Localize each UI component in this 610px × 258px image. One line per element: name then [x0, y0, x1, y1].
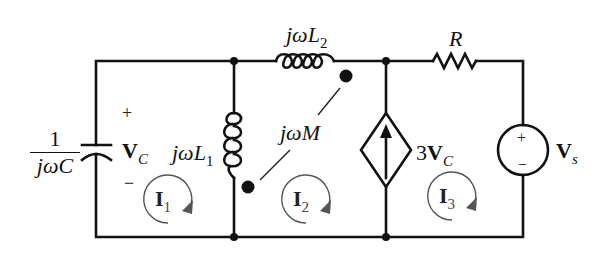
- voltage-source-label: Vs: [556, 140, 578, 162]
- dependent-current-source: [361, 61, 411, 237]
- clockwise-arrow-icon: [182, 200, 193, 214]
- capacitor-impedance-label: 1 jωC: [30, 128, 80, 177]
- dependent-source-label: 3VC: [416, 142, 453, 164]
- clockwise-arrow-icon: [320, 200, 331, 214]
- vc-minus: −: [124, 174, 134, 192]
- resistor-label: R: [449, 28, 462, 50]
- resistor: [386, 54, 523, 125]
- vc-plus: +: [122, 104, 132, 122]
- capacitor-label-numerator: 1: [30, 128, 80, 152]
- polarity-dot-L1: [242, 181, 255, 194]
- inductor-L2: [234, 54, 386, 68]
- mutual-leader-upper: [318, 88, 340, 115]
- node-top-left: [230, 57, 238, 65]
- mutual-leader-lower: [260, 150, 290, 180]
- clockwise-arrow-icon: [466, 197, 477, 211]
- inductor-L1-label: jωL1: [172, 142, 213, 164]
- vs-minus: −: [518, 156, 527, 173]
- polarity-dot-L2: [340, 70, 353, 83]
- node-top-right: [382, 57, 390, 65]
- vc-label: VC: [122, 140, 148, 162]
- mutual-inductance-label: jωM: [280, 122, 320, 144]
- mesh-current-I1-label: I1: [155, 188, 171, 210]
- vs-plus: +: [517, 129, 526, 146]
- arrow-up-icon: [380, 124, 392, 138]
- inductor-L1: [224, 61, 241, 237]
- mesh-current-I2-label: I2: [293, 188, 309, 210]
- node-bottom-right: [382, 233, 390, 241]
- inductor-L2-label: jωL2: [286, 24, 327, 46]
- node-bottom-left: [230, 233, 238, 241]
- mesh-current-I3-label: I3: [439, 185, 455, 207]
- capacitor-label-denominator: jωC: [30, 153, 80, 177]
